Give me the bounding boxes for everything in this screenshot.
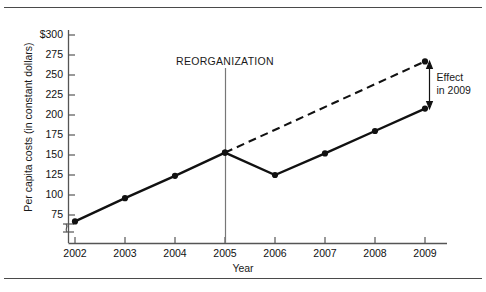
figure-container: $30027525022520017515012510075 200220032… — [0, 0, 486, 292]
effect-annotation-label: Effect in 2009 — [437, 71, 471, 97]
series-line-projected — [225, 61, 425, 152]
x-axis-tick-label: 2005 — [197, 247, 253, 259]
effect-annotation-label-line2: in 2009 — [437, 84, 471, 97]
x-axis-tick-label: 2002 — [47, 247, 103, 259]
effect-double-headed-arrow — [427, 61, 433, 108]
reorganization-annotation-label: REORGANIZATION — [176, 55, 274, 67]
x-axis-tick-label: 2007 — [297, 247, 353, 259]
x-axis-ticks — [75, 237, 425, 244]
x-axis-title: Year — [0, 262, 486, 274]
series-line-actual — [75, 109, 425, 222]
x-axis-tick-label: 2006 — [247, 247, 303, 259]
x-axis-tick-label: 2008 — [347, 247, 403, 259]
x-axis-tick-label: 2009 — [397, 247, 453, 259]
x-axis-tick-label: 2004 — [147, 247, 203, 259]
x-axis-tick-label: 2003 — [97, 247, 153, 259]
y-axis-ticks — [69, 35, 76, 215]
y-axis-title: Per capita costs (in constant dollars) — [22, 37, 34, 217]
effect-annotation-label-line1: Effect — [437, 71, 471, 84]
